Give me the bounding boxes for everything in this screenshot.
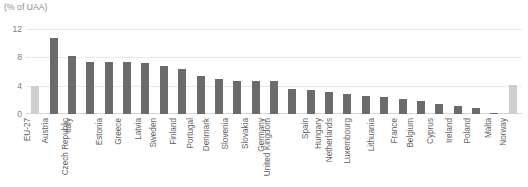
bar [288,89,296,115]
bar-slot [44,29,62,114]
x-axis-label-slot: Norway [504,116,522,186]
bar [399,99,407,114]
x-axis-tick-label: Slovakia [240,118,249,149]
bar [472,108,480,114]
bar-slot [26,29,44,114]
x-axis-tick-label: Norway [499,118,508,146]
bar-chart: (% of UAA) 04812 EU-27AustriaItalyCzech … [0,0,528,187]
x-axis-tick-label: Netherlands [325,118,334,162]
bar-slot [118,29,136,114]
x-axis-tick-label: Austria [41,118,50,143]
bar [270,81,278,114]
bar [454,106,462,114]
bar [435,104,443,114]
x-axis-tick-label: Cyprus [426,118,435,144]
y-axis-tick-label: 4 [17,81,22,91]
bar [86,62,94,114]
y-axis-labels: 04812 [0,29,22,114]
y-axis-tick-label: 0 [17,109,22,119]
bar-series [26,29,522,114]
bar-slot [155,29,173,114]
bar-slot [136,29,154,114]
x-axis-label-slot: Austria [44,116,62,186]
x-axis-tick-label: Greece [114,118,123,145]
plot-area [26,29,522,114]
bar [490,113,498,114]
bar-slot [283,29,301,114]
x-axis-tick-label: Poland [463,118,472,144]
bar [215,79,223,114]
bar [509,85,517,114]
bar-slot [228,29,246,114]
x-axis-tick-label: Czech Republic [62,118,71,175]
axis-unit-label: (% of UAA) [4,2,48,12]
x-axis-label-slot: Poland [467,116,485,186]
x-axis-tick-label: Luxembourg [343,118,352,164]
bar [178,69,186,114]
bar [325,92,333,114]
bar-slot [430,29,448,114]
bar-slot [504,29,522,114]
bar-slot [302,29,320,114]
x-axis-tick-label: Denmark [202,118,211,151]
x-axis-tick-label: EU-27 [24,118,33,141]
x-axis-tick-label: Spain [300,118,309,139]
x-axis-tick-label: Hungary [314,118,323,149]
x-axis-tick-label: Latvia [134,118,143,140]
x-axis-tick-label: United Kingdom [263,118,272,176]
x-axis-tick-label: Malta [484,118,493,138]
x-axis-tick-label: Sweden [149,118,158,148]
bar [31,86,39,114]
bar-slot [393,29,411,114]
x-axis-tick-label: Lithuania [368,118,377,151]
x-axis-tick-label: Slovenia [222,118,231,149]
bar [123,62,131,114]
bar [105,62,113,114]
x-axis-tick-label: Ireland [445,118,454,143]
bar-slot [63,29,81,114]
x-axis-tick-label: Portugal [185,118,194,149]
bar-slot [412,29,430,114]
bar-slot [81,29,99,114]
bar-slot [191,29,209,114]
bar-slot [173,29,191,114]
bar [160,66,168,114]
x-axis-tick-label: Estonia [95,118,104,145]
x-axis-tick-label: Belgium [406,118,415,148]
bar [252,81,260,114]
bar-slot [99,29,117,114]
x-axis-labels: EU-27AustriaItalyCzech RepublicEstoniaGr… [26,116,522,186]
bar-slot [265,29,283,114]
bar-slot [210,29,228,114]
bar-slot [375,29,393,114]
x-axis-tick-label: Finland [169,118,178,145]
bar [141,63,149,114]
bar-slot [485,29,503,114]
bar [197,76,205,114]
bar [307,90,315,114]
bar-slot [467,29,485,114]
bar-slot [449,29,467,114]
bar [417,101,425,114]
bar [68,56,76,114]
x-axis-tick-label: France [390,118,399,143]
y-axis-tick-label: 12 [13,24,22,34]
bar [380,97,388,114]
bar-slot [246,29,264,114]
x-axis-label-slot: United Kingdom [283,116,301,186]
bar-slot [338,29,356,114]
bar [362,96,370,114]
bar-slot [320,29,338,114]
bar [233,81,241,114]
bar-slot [357,29,375,114]
bar [343,94,351,114]
y-axis-tick-label: 8 [17,52,22,62]
bar [50,38,58,115]
